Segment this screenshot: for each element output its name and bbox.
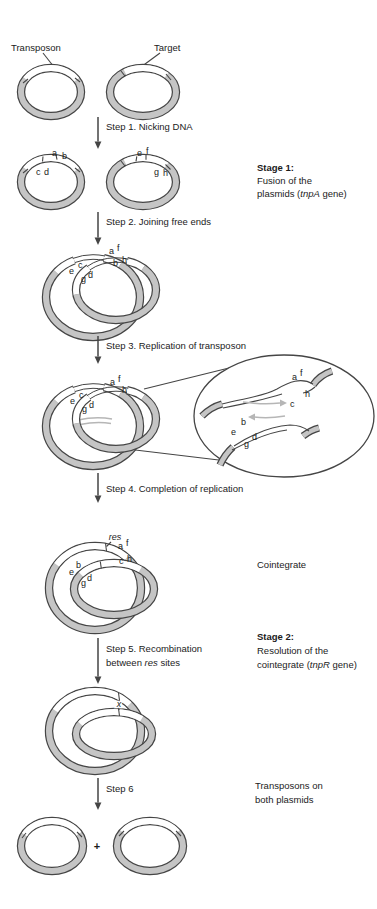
- tnpa-gene-italic: tnpA: [300, 188, 320, 199]
- new-strand-line: [78, 418, 112, 420]
- strand-label-b: b: [241, 417, 246, 427]
- step5-label-line2: between res sites: [106, 657, 180, 668]
- step2-label: Step 2. Joining free ends: [106, 216, 211, 227]
- stage2-line2-post: gene): [330, 659, 357, 670]
- strand-label-b: b: [62, 151, 67, 161]
- strand-label-e: e: [69, 266, 74, 276]
- stage2-note: Stage 2: Resolution of the cointegrate (…: [257, 631, 357, 670]
- strand-label-b: b: [113, 258, 118, 268]
- strand-label-f: f: [117, 243, 120, 253]
- strand-label-c: c: [36, 167, 41, 177]
- strand-label-a: a: [109, 246, 114, 256]
- strand-label-c: c: [78, 260, 83, 270]
- cointegrate-label: Cointegrate: [257, 559, 306, 570]
- cointegrate-structure: res a f c h b e g d: [49, 532, 154, 630]
- strand-label-d: d: [88, 270, 93, 280]
- final-plasmid-left: [21, 821, 83, 871]
- strand-label-e: e: [231, 427, 236, 437]
- arrow-head: [95, 357, 102, 365]
- stage2-title: Stage 2:: [257, 631, 294, 642]
- tnpr-gene-italic: tnpR: [310, 659, 330, 670]
- strand-label-d: d: [44, 167, 49, 177]
- step4-arrow: Step 4. Completion of replication: [95, 473, 244, 503]
- step1-label: Step 1. Nicking DNA: [106, 121, 193, 132]
- stage1-line2: plasmids (tnpA gene): [257, 188, 347, 199]
- arrow-head: [95, 238, 102, 246]
- strand-label-g: g: [81, 578, 86, 588]
- crossover-x-label: x: [116, 699, 122, 709]
- figure-canvas: Transposon Target Step 1. Nicking DNA a …: [0, 0, 377, 909]
- strand-label-f: f: [118, 374, 121, 384]
- plasmid-transposon-nicked: a b c d: [21, 148, 81, 206]
- result-line2: both plasmids: [255, 794, 314, 805]
- stage1-title: Stage 1:: [257, 162, 294, 173]
- plus-sign: +: [94, 840, 100, 852]
- strand-label-c: c: [119, 556, 124, 566]
- final-plasmid-right: [117, 821, 183, 871]
- strand-label-d: d: [252, 432, 257, 442]
- strand-label-h: h: [305, 389, 310, 399]
- result-note: Transposons on both plasmids: [255, 780, 323, 805]
- target-label: Target: [154, 42, 181, 53]
- strand-label-c: c: [290, 399, 295, 409]
- strand-label-d: d: [89, 400, 94, 410]
- step6-arrow: Step 6: [95, 778, 134, 810]
- strand-label-a: a: [52, 148, 57, 158]
- arrow-head: [95, 803, 102, 811]
- nick-tick: [43, 157, 44, 162]
- stage1-line2-post: gene): [320, 188, 347, 199]
- step5-line2-pre: between: [106, 657, 145, 668]
- step4-label: Step 4. Completion of replication: [106, 483, 243, 494]
- strand-label-a: a: [118, 541, 123, 551]
- recombination-structure: x: [49, 691, 152, 771]
- stage2-line2: cointegrate (tnpR gene): [257, 659, 357, 670]
- step6-label: Step 6: [106, 783, 133, 794]
- transposition-diagram: Transposon Target Step 1. Nicking DNA a …: [0, 0, 377, 909]
- strand-label-e: e: [69, 567, 74, 577]
- step3-arrow: Step 3. Replication of transposon: [95, 336, 246, 364]
- strand-label-h: h: [122, 385, 127, 395]
- stage1-line1: Fusion of the: [257, 175, 312, 186]
- strand-label-c: c: [79, 390, 84, 400]
- strand-label-a: a: [292, 372, 297, 382]
- strand-label-g: g: [82, 404, 87, 414]
- strand-label-b: b: [76, 560, 81, 570]
- strand-label-h: h: [127, 554, 132, 564]
- strand-label-d: d: [87, 573, 92, 583]
- strand-label-a: a: [110, 377, 115, 387]
- strand-label-h: h: [122, 255, 127, 265]
- new-strand-line: [80, 422, 111, 424]
- stage2-line2-pre: cointegrate (: [257, 659, 311, 670]
- arrow-head: [95, 496, 102, 504]
- fused-plasmid-structure: a f b h c e g d: [44, 243, 159, 339]
- arrow-head: [95, 677, 102, 685]
- stage1-line2-pre: plasmids (: [257, 188, 301, 199]
- step5-line2-post: sites: [158, 657, 180, 668]
- result-line1: Transposons on: [255, 780, 323, 791]
- plasmid-target-nicked: e f g h: [110, 146, 176, 206]
- strand-label-e: e: [70, 396, 75, 406]
- transposon-label: Transposon: [11, 42, 61, 53]
- step5-arrow: Step 5. Recombination between res sites: [95, 638, 203, 684]
- arrow-head: [95, 142, 102, 150]
- strand-label-h: h: [163, 168, 168, 178]
- strand-label-g: g: [81, 274, 86, 284]
- top-labels: Transposon Target: [11, 42, 181, 67]
- strand-label-e: e: [137, 148, 142, 158]
- plasmid-target: [110, 68, 176, 116]
- step3-label: Step 3. Replication of transposon: [106, 340, 246, 351]
- step2-arrow: Step 2. Joining free ends: [95, 212, 212, 245]
- stage1-note: Stage 1: Fusion of the plasmids (tnpA ge…: [257, 162, 347, 199]
- stage2-line1: Resolution of the: [257, 645, 328, 656]
- strand-label-g: g: [244, 439, 249, 449]
- step5-label-line1: Step 5. Recombination: [106, 643, 202, 654]
- res-italic: res: [145, 657, 158, 668]
- replication-fork-magnifier: a f h c b e g d: [194, 355, 374, 477]
- strand-label-g: g: [154, 167, 159, 177]
- strand-label-f: f: [126, 538, 129, 548]
- plasmid-transposon: [21, 68, 81, 116]
- step1-arrow: Step 1. Nicking DNA: [95, 117, 194, 149]
